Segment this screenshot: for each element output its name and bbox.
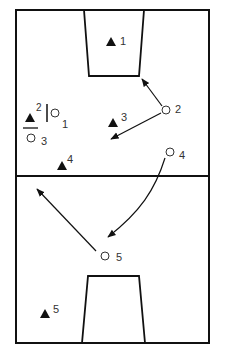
bottom-key <box>82 276 145 343</box>
offense-5-label: 5 <box>116 251 122 263</box>
offense-3: 3 <box>27 134 47 147</box>
arrow-offense2-to-defender3 <box>111 113 161 139</box>
curved-arrow-offense4-to-offense5 <box>108 158 165 237</box>
offense-1-label: 1 <box>62 118 68 130</box>
offense-4-label: 4 <box>179 149 185 161</box>
triangle-icon <box>106 37 116 46</box>
offense-3-label: 3 <box>41 135 47 147</box>
offense-1: 1 <box>51 109 68 130</box>
defender-4: 4 <box>57 153 73 170</box>
defender-4-label: 4 <box>67 153 73 165</box>
arrow-offense2-to-key <box>142 79 162 106</box>
offense-4: 4 <box>166 148 185 161</box>
triangle-icon <box>108 118 118 127</box>
offense-5: 5 <box>101 251 122 263</box>
circle-icon <box>51 109 59 117</box>
offense-2: 2 <box>162 103 181 115</box>
triangle-icon <box>25 113 35 122</box>
triangle-icon <box>40 309 50 318</box>
defender-3: 3 <box>108 111 127 127</box>
circle-icon <box>166 148 174 156</box>
defender-5: 5 <box>40 303 59 318</box>
defender-2: 2 <box>25 102 42 122</box>
defender-1-label: 1 <box>120 35 126 47</box>
defender-3-label: 3 <box>121 111 127 123</box>
defender-1: 1 <box>106 35 126 47</box>
offense-2-label: 2 <box>175 103 181 115</box>
circle-icon <box>101 252 109 260</box>
defender-2-label: 2 <box>36 102 42 113</box>
arrow-offense5-to-backcourt <box>37 189 96 251</box>
triangle-icon <box>57 161 67 170</box>
defender-5-label: 5 <box>53 303 59 315</box>
court-diagram: 1 2 1 3 3 2 4 4 5 5 <box>0 0 225 359</box>
circle-icon <box>162 106 170 114</box>
circle-icon <box>27 134 35 142</box>
